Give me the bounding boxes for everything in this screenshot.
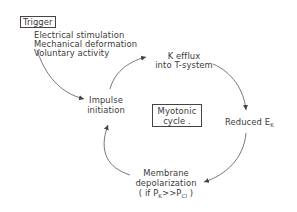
- reduced-ek-text: Reduced E: [225, 117, 270, 127]
- myotonic-cycle-diagram: Trigger Electrical stimulation Mechanica…: [0, 0, 297, 212]
- reduced-ek-subscript: K: [270, 122, 274, 128]
- arrow-reducedek-to-membrane: [204, 133, 246, 182]
- node-membrane-depolarization: Membrane depolarization ( if PK>>PCl ): [128, 168, 204, 201]
- condition-mid: >>P: [162, 188, 181, 198]
- condition-suffix: ): [187, 188, 193, 198]
- impulse-line2: initiation: [82, 105, 130, 115]
- node-impulse-initiation: Impulse initiation: [82, 95, 130, 115]
- node-reduced-ek: Reduced EK: [225, 118, 274, 130]
- arrow-kefflux-to-reducedek: [213, 64, 246, 110]
- arrow-membrane-to-impulse: [104, 125, 130, 175]
- cycle-line1: Myotonic: [155, 106, 199, 116]
- arrow-impulse-to-kefflux: [110, 57, 146, 89]
- membrane-line1: Membrane: [128, 168, 204, 178]
- trigger-title: Trigger: [23, 17, 53, 27]
- node-k-efflux: K efflux into T-system: [148, 52, 220, 70]
- condition-prefix: ( if P: [139, 188, 159, 198]
- cycle-line2: cycle .: [155, 116, 199, 126]
- membrane-line2: depolarization: [128, 178, 204, 188]
- impulse-line1: Impulse: [82, 95, 130, 105]
- membrane-condition: ( if PK>>PCl ): [128, 188, 204, 201]
- k-efflux-line2: into T-system: [148, 61, 220, 70]
- myotonic-cycle-box: Myotonic cycle .: [152, 104, 202, 127]
- trigger-causes: Electrical stimulation Mechanical deform…: [34, 31, 137, 58]
- cause-voluntary: Voluntary activity: [34, 49, 137, 58]
- trigger-box: Trigger: [20, 16, 56, 28]
